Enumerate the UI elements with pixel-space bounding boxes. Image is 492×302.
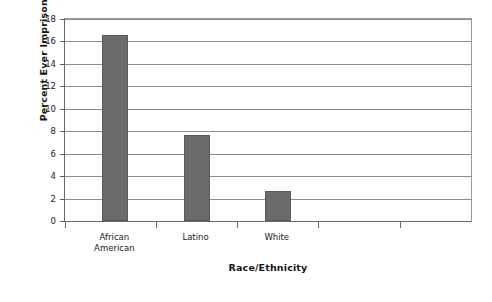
x-axis-title: Race/Ethnicity (64, 262, 472, 273)
y-axis-tick-label: 6 (51, 149, 56, 159)
y-axis-tick-label: 16 (45, 36, 56, 46)
x-axis-tick (318, 221, 319, 228)
y-axis-tick-label: 2 (51, 194, 56, 204)
y-axis-tick (60, 86, 65, 87)
y-axis-tick (60, 199, 65, 200)
y-axis-tick-label: 10 (45, 104, 56, 114)
x-axis-category-label: African American (94, 232, 134, 253)
gridline (65, 19, 471, 20)
x-axis-tick (156, 221, 157, 228)
y-axis-tick (60, 64, 65, 65)
x-axis-tick (237, 221, 238, 228)
y-axis-tick (60, 41, 65, 42)
y-axis-tick-label: 0 (51, 216, 56, 226)
bar (265, 191, 291, 221)
x-axis-tick (65, 221, 66, 228)
y-axis-tick-label: 12 (45, 81, 56, 91)
x-axis-category-label: Latino (182, 232, 208, 243)
y-axis-tick (60, 154, 65, 155)
bar (102, 35, 128, 221)
x-axis-category-label: White (264, 232, 289, 243)
plot-area: 024681012141618 (64, 18, 472, 222)
bar (184, 135, 210, 221)
y-axis-tick (60, 131, 65, 132)
y-axis-tick-label: 4 (51, 171, 56, 181)
y-axis-tick-label: 18 (45, 14, 56, 24)
y-axis-tick (60, 176, 65, 177)
bar-chart-figure: Percent Ever Imprisoned 024681012141618 … (0, 0, 492, 302)
y-axis-tick (60, 19, 65, 20)
x-axis-tick (400, 221, 401, 228)
y-axis-tick-label: 14 (45, 59, 56, 69)
y-axis-tick (60, 109, 65, 110)
y-axis-tick-label: 8 (51, 126, 56, 136)
